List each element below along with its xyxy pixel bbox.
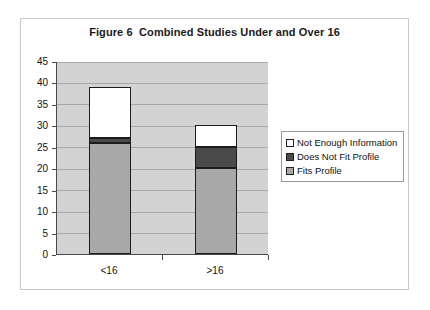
chart-legend: Not Enough InformationDoes Not Fit Profi…	[281, 131, 404, 182]
x-axis-tick-label: <16	[79, 265, 139, 276]
x-axis-tick-label: >16	[185, 265, 245, 276]
bar-segment[interactable]	[195, 125, 237, 146]
chart-title: Figure 6 Combined Studies Under and Over…	[20, 26, 409, 38]
y-axis-tick-label: 45	[0, 57, 48, 67]
y-axis-tick-label: 5	[0, 229, 48, 239]
legend-item-label: Not Enough Information	[297, 138, 397, 148]
y-axis-tick-label: 0	[0, 250, 48, 260]
legend-item-label: Fits Profile	[297, 166, 342, 176]
bar-segment[interactable]	[89, 138, 131, 142]
y-axis-tick-label: 15	[0, 186, 48, 196]
y-tick-mark	[52, 212, 56, 213]
bar-segment[interactable]	[89, 143, 131, 255]
bar-segment[interactable]	[89, 87, 131, 138]
y-axis-tick-label: 10	[0, 207, 48, 217]
y-axis-tick-label: 40	[0, 78, 48, 88]
bar-segment[interactable]	[195, 168, 237, 254]
y-axis-tick-label: 30	[0, 121, 48, 131]
plot-area	[56, 62, 268, 255]
legend-swatch-icon	[286, 139, 294, 147]
y-tick-mark	[52, 62, 56, 63]
y-axis-tick-label: 25	[0, 143, 48, 153]
y-tick-mark	[52, 191, 56, 192]
bar-stack[interactable]	[89, 61, 131, 254]
bar-segment[interactable]	[195, 147, 237, 168]
y-tick-mark	[52, 148, 56, 149]
y-tick-mark	[52, 83, 56, 84]
legend-item[interactable]: Fits Profile	[286, 164, 399, 178]
x-tick-mark	[268, 255, 269, 260]
figure-container: Figure 6 Combined Studies Under and Over…	[0, 0, 430, 310]
legend-item[interactable]: Does Not Fit Profile	[286, 150, 399, 164]
y-tick-mark	[52, 126, 56, 127]
y-tick-mark	[52, 105, 56, 106]
y-tick-mark	[52, 169, 56, 170]
y-tick-mark	[52, 234, 56, 235]
legend-swatch-icon	[286, 153, 294, 161]
legend-swatch-icon	[286, 167, 294, 175]
y-tick-mark	[52, 255, 56, 256]
bar-stack[interactable]	[195, 61, 237, 254]
x-tick-mark	[162, 255, 163, 260]
legend-item[interactable]: Not Enough Information	[286, 136, 399, 150]
y-axis-tick-label: 20	[0, 164, 48, 174]
y-axis-tick-label: 35	[0, 100, 48, 110]
legend-item-label: Does Not Fit Profile	[297, 152, 379, 162]
